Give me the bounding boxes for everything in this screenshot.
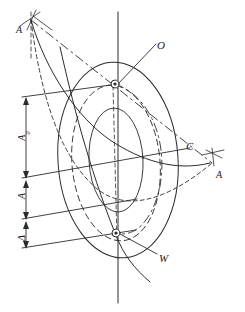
apex-tick-3 <box>33 16 52 30</box>
node-marker-lower <box>112 229 120 237</box>
label-axis-a-left: A <box>16 25 22 35</box>
inner-vertical-dashed-axis <box>113 86 117 240</box>
node-marker-upper <box>111 80 119 88</box>
label-point-c: C <box>186 141 193 152</box>
label-dimension-a0-subscript: 0 <box>24 132 31 135</box>
chord-line-c <box>22 148 190 178</box>
figure-canvas: O C W A A A0 A Δ <box>0 0 245 312</box>
label-dimension-a: A <box>17 193 27 199</box>
projection-line-middle <box>22 199 137 219</box>
solid-curve-through-nodes <box>60 47 150 282</box>
label-axis-a-right: A <box>216 170 222 180</box>
leader-line-w <box>120 234 157 254</box>
inner-ellipse <box>86 107 145 214</box>
dashed-curve-apex-to-right <box>31 20 212 201</box>
label-point-w: W <box>159 253 168 264</box>
label-dimension-a0: A0 <box>17 132 29 141</box>
diagram-svg <box>0 0 245 312</box>
leader-line-o <box>118 44 156 84</box>
label-dimension-delta: Δ <box>17 235 27 241</box>
label-dimension-a0-base: A <box>16 135 27 141</box>
middle-ellipse-dashed <box>65 81 166 244</box>
label-point-o: O <box>157 40 165 51</box>
